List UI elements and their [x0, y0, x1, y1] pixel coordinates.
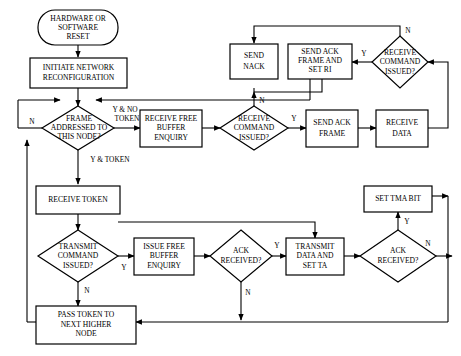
recv-cmd2-line-1: RECEIVE: [384, 48, 416, 57]
issue-free-buffer-line-3: ENQUIRY: [147, 261, 181, 270]
label-frame-no: N: [29, 117, 35, 126]
node-send-ack-frame-and-set-ri[interactable]: SEND ACK FRAME AND SET RI: [288, 44, 352, 79]
ack2-line-1: ACK: [390, 246, 407, 255]
node-issue-free-buffer-enquiry[interactable]: ISSUE FREE BUFFER ENQUIRY: [134, 238, 194, 275]
recv-cmd1-line-2: COMMAND: [234, 123, 275, 132]
send-ack-frame-line-1: SEND ACK: [313, 118, 351, 127]
send-ack-frame-line-2: FRAME: [319, 129, 346, 138]
send-nack-line-1: SEND: [244, 51, 264, 60]
recv-cmd1-line-3: ISSUED?: [239, 133, 270, 142]
frame-line-3: THIS NODE?: [57, 132, 101, 141]
set-tma-line-1: SET TMA BIT: [375, 194, 421, 203]
label-ack1-no: N: [245, 288, 251, 297]
reset-line-1: HARDWARE OR: [50, 14, 106, 23]
initiate-line-1: INITIATE NETWORK: [43, 63, 115, 72]
transmit-data-line-3: SET TA: [303, 261, 328, 270]
label-ack1-yes: Y: [274, 241, 280, 250]
edge-feedback-to-transmit-data-top: [118, 222, 315, 238]
frame-line-2: ADDRESSED TO: [51, 123, 108, 132]
issue-free-buffer-line-1: ISSUE FREE: [143, 242, 185, 251]
label-frame-yes-token: Y & TOKEN: [90, 155, 130, 164]
label-frame-yes-no-token-1: Y & NO: [112, 105, 138, 114]
label-recv-cmd2-yes: Y: [361, 49, 367, 58]
send-ack-ri-line-3: SET RI: [309, 65, 332, 74]
node-receive-token[interactable]: RECEIVE TOKEN: [36, 186, 120, 214]
recv-free-buffer-line-2: BUFFER: [157, 123, 187, 132]
send-ack-ri-line-1: SEND ACK: [301, 47, 339, 56]
send-nack-line-2: NACK: [243, 62, 265, 71]
node-send-ack-frame[interactable]: SEND ACK FRAME: [306, 110, 358, 147]
node-send-nack[interactable]: SEND NACK: [230, 44, 278, 79]
issue-free-buffer-line-2: BUFFER: [150, 251, 180, 260]
node-receive-free-buffer-enquiry[interactable]: RECEIVE FREE BUFFER ENQUIRY: [140, 110, 202, 147]
label-ack2-no: N: [425, 239, 431, 248]
node-set-tma-bit[interactable]: SET TMA BIT: [364, 186, 432, 212]
label-recv-cmd1-no: N: [259, 96, 265, 105]
edge-receive-data-to-right-bus: [428, 62, 448, 128]
recv-free-buffer-line-1: RECEIVE FREE: [145, 114, 198, 123]
node-pass-token-to-next-higher-node[interactable]: PASS TOKEN TO NEXT HIGHER NODE: [36, 306, 136, 344]
send-ack-ri-line-2: FRAME AND: [298, 56, 343, 65]
recv-cmd2-line-3: ISSUED?: [385, 67, 416, 76]
node-hardware-software-reset[interactable]: HARDWARE OR SOFTWARE RESET: [38, 10, 118, 45]
node-transmit-command-issued[interactable]: TRANSMIT COMMAND ISSUED?: [38, 230, 118, 282]
recv-cmd1-line-1: RECEIVE: [238, 114, 270, 123]
node-transmit-data-and-set-ta[interactable]: TRANSMIT DATA AND SET TA: [286, 238, 344, 275]
reset-line-2: SOFTWARE: [58, 23, 98, 32]
node-receive-data[interactable]: RECEIVE DATA: [376, 110, 428, 147]
recv-cmd2-line-2: COMMAND: [380, 57, 421, 66]
flowchart-canvas: HARDWARE OR SOFTWARE RESET INITIATE NETW…: [0, 0, 461, 356]
edge-send-ack-ri-down: [254, 79, 322, 92]
label-recv-cmd1-yes: Y: [291, 114, 297, 123]
node-initiate-network-reconfiguration[interactable]: INITIATE NETWORK RECONFIGURATION: [30, 58, 127, 88]
receive-data-line-2: DATA: [392, 129, 412, 138]
node-ack-received-first[interactable]: ACK RECEIVED?: [210, 230, 272, 282]
transmit-data-line-2: DATA AND: [296, 251, 334, 260]
transmit-cmd-line-3: ISSUED?: [63, 261, 94, 270]
recv-free-buffer-line-3: ENQUIRY: [154, 133, 188, 142]
reset-line-3: RESET: [66, 32, 90, 41]
ack1-line-2: RECEIVED?: [221, 256, 263, 265]
ack2-line-2: RECEIVED?: [378, 256, 420, 265]
label-frame-yes-no-token-2: TOKEN: [115, 114, 141, 123]
ack1-line-1: ACK: [233, 246, 250, 255]
receive-data-line-1: RECEIVE: [386, 118, 418, 127]
transmit-data-line-1: TRANSMIT: [296, 242, 335, 251]
pass-token-line-1: PASS TOKEN TO: [58, 310, 115, 319]
node-frame-addressed-to-this-node[interactable]: FRAME ADDRESSED TO THIS NODE?: [42, 106, 114, 150]
transmit-cmd-line-2: COMMAND: [58, 251, 99, 260]
receive-token-line-1: RECEIVE TOKEN: [48, 195, 108, 204]
node-receive-command-issued-upper[interactable]: RECEIVE COMMAND ISSUED?: [372, 36, 428, 88]
edge-recv-cmd2-no-top-bus: [254, 26, 400, 43]
transmit-cmd-line-1: TRANSMIT: [59, 242, 98, 251]
label-transmit-cmd-no: N: [84, 286, 90, 295]
label-ack2-yes: Y: [404, 217, 410, 226]
node-receive-command-issued-lower[interactable]: RECEIVE COMMAND ISSUED?: [220, 106, 288, 150]
label-recv-cmd2-no: N: [405, 26, 411, 35]
pass-token-line-3: NODE: [75, 329, 96, 338]
label-transmit-cmd-yes: Y: [121, 263, 127, 272]
initiate-line-2: RECONFIGURATION: [43, 73, 115, 82]
flowchart-svg: HARDWARE OR SOFTWARE RESET INITIATE NETW…: [0, 0, 461, 356]
pass-token-line-2: NEXT HIGHER: [61, 320, 113, 329]
frame-line-1: FRAME: [66, 114, 93, 123]
